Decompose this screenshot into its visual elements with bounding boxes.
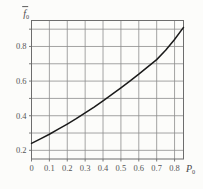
chart-svg: 00.10.20.30.40.50.60.70.8 0.20.40.60.8 f… [0, 0, 203, 189]
x-tick-label: 0.5 [116, 163, 127, 173]
y-tick-label: 0.6 [16, 76, 27, 86]
y-tick-label: 0.8 [16, 41, 27, 51]
x-tick-label: 0 [29, 163, 33, 173]
x-tick-label: 0.4 [98, 163, 109, 173]
x-tick-label: 0.3 [80, 163, 91, 173]
figure-background [0, 0, 203, 189]
x-tick-label: 0.6 [133, 163, 144, 173]
x-tick-label: 0.2 [62, 163, 73, 173]
figure-container: 00.10.20.30.40.50.60.70.8 0.20.40.60.8 f… [0, 0, 203, 189]
x-tick-label: 0.8 [169, 163, 180, 173]
y-tick-label: 0.4 [16, 111, 27, 121]
x-tick-label: 0.1 [44, 163, 55, 173]
y-tick-label: 0.2 [16, 145, 27, 155]
x-axis-tick-labels: 00.10.20.30.40.50.60.70.8 [29, 163, 179, 173]
x-tick-label: 0.7 [151, 163, 162, 173]
